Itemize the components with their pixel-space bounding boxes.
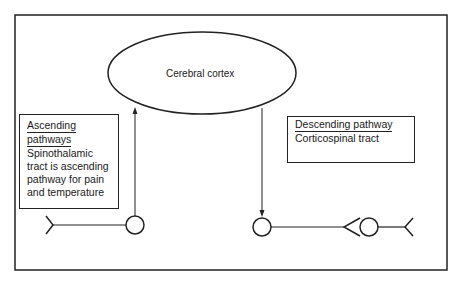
ascending-body: Spinothalamic tract is ascending pathway… — [27, 147, 109, 199]
ascending-title-line1: Ascending — [27, 119, 76, 133]
descending-title: Descending pathway — [295, 118, 392, 132]
ascending-pathways-box: Ascending pathways Spinothalamic tract i… — [19, 114, 119, 209]
ascending-body-line: tract is ascending — [27, 160, 109, 173]
descending-body: Corticospinal tract — [295, 132, 379, 145]
right-neuron — [253, 218, 413, 236]
left-neuron — [46, 216, 144, 234]
arrow-head-down-icon — [260, 210, 265, 217]
descending-title-text: Descending pathway — [295, 118, 392, 132]
ascending-title: Ascending pathways — [27, 119, 76, 147]
ascending-body-line: Spinothalamic — [27, 147, 109, 160]
cell-body-icon — [360, 218, 378, 236]
ascending-title-line2: pathways — [27, 133, 71, 147]
ascending-body-line: pathway for pain — [27, 173, 109, 186]
cerebral-cortex-label: Cerebral cortex — [166, 67, 234, 80]
descending-pathway-box: Descending pathway Corticospinal tract — [287, 116, 415, 163]
cell-body-icon — [126, 216, 144, 234]
axon-terminal-fork-icon — [405, 218, 413, 236]
ascending-body-line: and temperature — [27, 186, 109, 199]
cell-body-icon — [253, 218, 271, 236]
dendrite-fork-icon — [46, 216, 53, 234]
arrow-head-up-icon — [133, 107, 138, 114]
synapse-chevron-icon — [344, 218, 360, 236]
